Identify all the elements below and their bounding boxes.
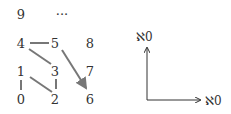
x-axis-label: ℵ0 [205, 95, 222, 107]
edge-5-6-arrow [62, 50, 86, 88]
node-2: 4 [15, 37, 27, 50]
node-7: 7 [84, 65, 96, 78]
node-4: 8 [84, 37, 96, 50]
y-axis-label: ℵ0 [136, 31, 153, 43]
diagram-lines [0, 0, 231, 114]
node-0: 9 [15, 8, 27, 21]
edge-4-3 [29, 49, 51, 64]
node-3: 5 [49, 37, 61, 50]
node-1: ··· [47, 8, 77, 21]
edge-1-2 [30, 77, 52, 92]
node-8: 0 [15, 93, 27, 106]
node-6: 3 [49, 65, 61, 78]
node-5: 1 [15, 65, 27, 78]
node-10: 6 [84, 93, 96, 106]
node-9: 2 [49, 93, 61, 106]
